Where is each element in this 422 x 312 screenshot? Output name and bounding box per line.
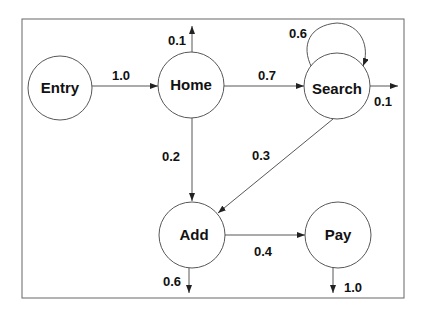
edge-label-search-self: 0.6 bbox=[289, 26, 307, 41]
node-label-home: Home bbox=[170, 76, 212, 93]
node-search: Search bbox=[304, 53, 370, 119]
edge-label-home-exit: 0.1 bbox=[168, 33, 186, 48]
edge-add-pay: 0.4 bbox=[225, 235, 305, 259]
node-label-add: Add bbox=[179, 226, 208, 243]
node-entry: Entry bbox=[28, 56, 92, 120]
edge-add-exit: 0.6 bbox=[163, 268, 189, 293]
edge-home-search: 0.7 bbox=[224, 68, 304, 86]
edge-home-add: 0.2 bbox=[162, 118, 192, 201]
edge-label-pay-exit: 1.0 bbox=[344, 280, 362, 295]
node-pay: Pay bbox=[305, 202, 371, 268]
edge-label-search-exit: 0.1 bbox=[374, 94, 392, 109]
edge-label-home-search: 0.7 bbox=[258, 68, 276, 83]
edge-label-search-add: 0.3 bbox=[252, 148, 270, 163]
edge-label-add-pay: 0.4 bbox=[254, 244, 273, 259]
edge-label-entry-home: 1.0 bbox=[112, 68, 130, 83]
edge-label-add-exit: 0.6 bbox=[163, 274, 181, 289]
edge-pay-exit: 1.0 bbox=[333, 267, 362, 295]
node-add: Add bbox=[159, 202, 225, 268]
state-diagram: 1.0 0.1 0.7 0.2 0.6 0.1 0.3 0.4 0.6 1.0 bbox=[0, 0, 422, 312]
node-label-entry: Entry bbox=[41, 79, 80, 96]
edge-home-exit: 0.1 bbox=[168, 26, 192, 52]
edge-search-add: 0.3 bbox=[218, 119, 333, 213]
node-label-pay: Pay bbox=[325, 226, 352, 243]
node-label-search: Search bbox=[312, 80, 362, 97]
node-home: Home bbox=[158, 52, 224, 118]
edge-label-home-add: 0.2 bbox=[162, 149, 180, 164]
edge-search-exit: 0.1 bbox=[370, 86, 398, 109]
edge-entry-home: 1.0 bbox=[92, 68, 158, 86]
